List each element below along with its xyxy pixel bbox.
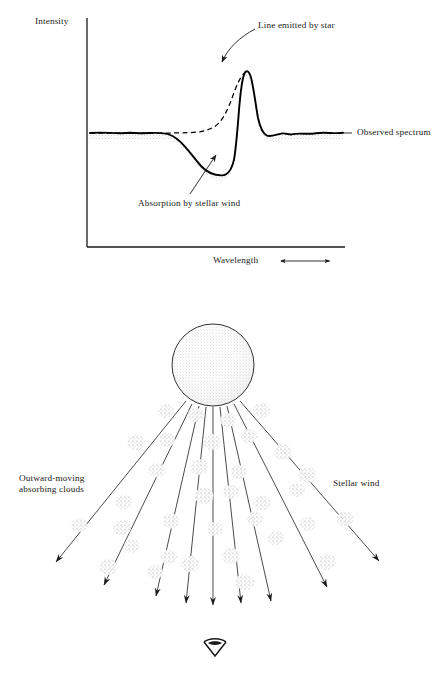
outward-moving-clouds-label: Outward-moving absorbing clouds [19, 473, 114, 495]
star [172, 324, 254, 406]
wind-rays [56, 401, 379, 605]
observer-eye-icon [204, 639, 226, 656]
stellar-wind-svg [0, 0, 440, 674]
stellar-wind-label: Stellar wind [333, 478, 379, 489]
outward-moving-clouds-line1: Outward-moving [19, 473, 84, 483]
absorbing-clouds [71, 403, 354, 591]
figure-root: Intensity Wavelength Observed spectrum L… [0, 0, 440, 674]
outward-moving-clouds-line2: absorbing clouds [19, 484, 84, 494]
